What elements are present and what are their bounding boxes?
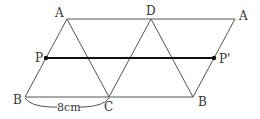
point-p: [44, 56, 48, 60]
point-p-prime: [212, 56, 216, 60]
label-p: P: [35, 51, 43, 65]
label-c: C: [104, 100, 113, 114]
label-a-right: A: [238, 9, 248, 23]
label-d: D: [146, 4, 156, 18]
geometry-figure: A D A P P' B C B 8cm: [0, 0, 260, 119]
label-p-prime: P': [219, 52, 230, 66]
label-length-bc: 8cm: [57, 101, 81, 114]
brace-left: [25, 98, 57, 107]
label-b-left: B: [13, 93, 22, 107]
label-a-left: A: [54, 6, 64, 20]
label-b-right: B: [198, 95, 207, 109]
diagram-canvas: A D A P P' B C B 8cm: [0, 0, 260, 119]
